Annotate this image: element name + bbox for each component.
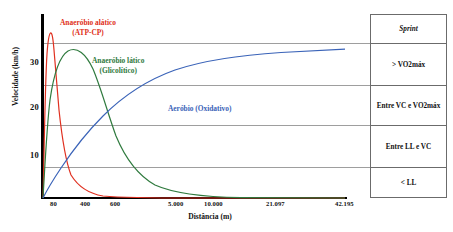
annotation-anaerobio-alatico: Anaeróbio alático (ATP-CP)	[60, 18, 116, 38]
chart-root: 30 20 10 Velocidade (km/h) 80 400 600 5.…	[0, 0, 453, 232]
annotation-line2: (ATP-CP)	[60, 28, 116, 38]
intensity-zone-panel: Sprint > VO2máx Entre VC e VO2máx Entre …	[370, 14, 447, 198]
zone-below-ll: < LL	[371, 168, 446, 198]
annotation-line2: (Glicolítico)	[92, 66, 144, 76]
y-tick-30: 30	[17, 57, 39, 67]
annotation-line1: Anaeróbio lático	[92, 56, 144, 66]
series-path-anaerobio-latico	[43, 50, 345, 198]
zone-above-vo2max: > VO2máx	[371, 44, 446, 86]
y-tick-10: 10	[17, 150, 39, 160]
x-tick-42195: 42.195	[335, 200, 354, 207]
x-tick-10000: 10.000	[204, 200, 223, 207]
zone-between-ll-vc: Entre LL e VC	[371, 126, 446, 168]
y-tick-20: 20	[17, 102, 39, 112]
annotation-line1: Anaeróbio alático	[60, 18, 116, 28]
x-axis-title: Distância (m)	[150, 212, 270, 221]
y-axis-title: Velocidade (km/h)	[11, 34, 20, 120]
annotation-line1: Aeróbio (Oxidativo)	[168, 104, 231, 114]
x-tick-80: 80	[50, 200, 57, 207]
x-tick-5000: 5.000	[168, 200, 183, 207]
x-tick-21097: 21.097	[266, 200, 285, 207]
x-tick-400: 400	[80, 200, 90, 207]
x-tick-600: 600	[110, 200, 120, 207]
series-path-aerobio-oxidativo	[43, 49, 345, 198]
annotation-aerobio-oxidativo: Aeróbio (Oxidativo)	[168, 104, 231, 114]
annotation-anaerobio-latico: Anaeróbio lático (Glicolítico)	[92, 56, 144, 76]
series-path-anaerobio-alatico	[43, 33, 345, 198]
zone-between-vc-vo2max: Entre VC e VO2máx	[371, 86, 446, 126]
zone-sprint: Sprint	[371, 15, 446, 44]
